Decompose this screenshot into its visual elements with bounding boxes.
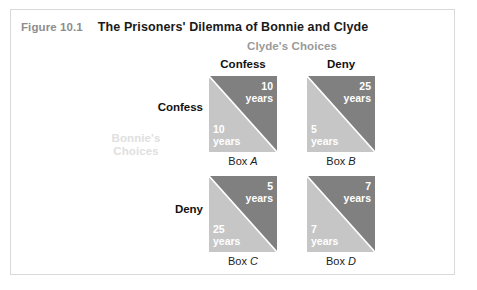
- payoff-matrix: Clyde's Choices Confess Deny Bonnie's Ch…: [0, 0, 477, 290]
- matrix-cell-a: 10 years 10 years: [209, 76, 277, 152]
- box-label-d: Box D: [307, 255, 375, 267]
- row-header-deny: Deny: [133, 203, 203, 215]
- cell-a-bonnie-payoff: 10 years: [213, 124, 240, 147]
- row-axis-label: Bonnie's Choices: [88, 132, 184, 158]
- row-axis-label-line1: Bonnie's: [88, 132, 184, 145]
- column-header-confess: Confess: [209, 58, 277, 70]
- box-label-a: Box A: [209, 155, 277, 167]
- column-axis-label: Clyde's Choices: [209, 40, 375, 52]
- matrix-cell-d: 7 years 7 years: [307, 176, 375, 252]
- matrix-cell-b: 25 years 5 years: [307, 76, 375, 152]
- cell-b-clyde-payoff: 25 years: [344, 81, 371, 104]
- cell-d-clyde-payoff: 7 years: [344, 181, 371, 204]
- row-axis-label-line2: Choices: [88, 145, 184, 158]
- row-header-confess: Confess: [133, 101, 203, 113]
- cell-a-clyde-payoff: 10 years: [246, 81, 273, 104]
- box-label-b: Box B: [307, 155, 375, 167]
- cell-c-clyde-payoff: 5 years: [246, 181, 273, 204]
- cell-d-bonnie-payoff: 7 years: [311, 224, 338, 247]
- column-header-deny: Deny: [307, 58, 375, 70]
- cell-c-bonnie-payoff: 25 years: [213, 224, 240, 247]
- matrix-cell-c: 5 years 25 years: [209, 176, 277, 252]
- box-label-c: Box C: [209, 255, 277, 267]
- cell-b-bonnie-payoff: 5 years: [311, 124, 338, 147]
